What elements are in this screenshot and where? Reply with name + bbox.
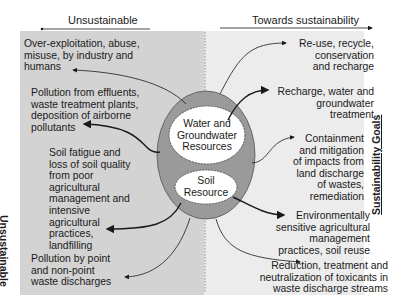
soil-resource-label: Soil Resource — [176, 175, 236, 198]
header-unsustainable: Unsustainable — [68, 14, 138, 26]
left-item-pollution-effluents: Pollution from effluents, waste treatmen… — [31, 87, 139, 133]
header-towards-sustainability: Towards sustainability — [252, 14, 359, 26]
right-item-reuse: Re-use, recycle, conservation and rechar… — [270, 38, 374, 73]
side-label-unsustainable: Unsustainable — [0, 215, 10, 287]
left-item-pollution-point: Pollution by point and non-point waste d… — [31, 253, 111, 288]
right-item-recharge: Recharge, water and groundwater treatmen… — [270, 86, 374, 121]
right-item-reduction-treatment: Reduction, treatment and neutralization … — [240, 260, 388, 295]
side-label-sustainability-goals: Sustainability Goals — [370, 115, 382, 215]
right-item-containment: Containment and mitigation of impacts fr… — [270, 133, 364, 203]
water-resources-label: Water and Groundwater Resources — [170, 118, 244, 153]
left-item-soil-fatigue: Soil fatigue and loss of soil quality fr… — [49, 147, 130, 251]
left-item-over-exploitation: Over-exploitation, abuse, misuse, by ind… — [24, 38, 140, 73]
right-item-environmentally-sensitive: Environmentally sensitive agricultural m… — [260, 210, 370, 256]
